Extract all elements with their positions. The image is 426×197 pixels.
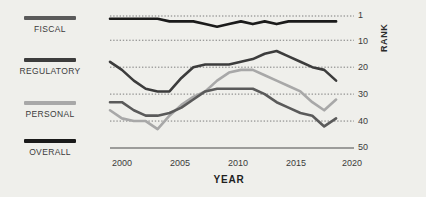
x-tick-2015: 2015 [286,158,306,168]
y-tick-30: 30 [358,89,368,99]
legend-swatch-overall [24,139,76,143]
x-axis-title: YEAR [104,174,354,185]
series-line-personal [110,70,336,129]
chart-legend: FISCAL REGULATORY PERSONAL OVERALL [0,0,100,197]
x-tick-2010: 2010 [228,158,248,168]
legend-label-overall: OVERALL [0,147,100,157]
legend-label-fiscal: FISCAL [0,24,100,34]
y-tick-1: 1 [358,10,363,20]
series-line-regulatory [110,51,336,91]
legend-item-fiscal[interactable]: FISCAL [0,16,100,34]
legend-swatch-fiscal [24,16,76,20]
y-tick-10: 10 [358,36,368,46]
legend-item-overall[interactable]: OVERALL [0,139,100,157]
legend-item-personal[interactable]: PERSONAL [0,101,100,119]
series-line-overall [110,19,336,27]
x-tick-2000: 2000 [112,158,132,168]
legend-label-regulatory: REGULATORY [0,66,100,76]
y-tick-40: 40 [358,116,368,126]
legend-swatch-regulatory [24,58,76,62]
x-tick-2005: 2005 [170,158,190,168]
plot-area [104,0,354,160]
legend-label-personal: PERSONAL [0,109,100,119]
y-axis-title: RANK [379,0,389,52]
x-tick-2020: 2020 [342,158,362,168]
x-axis-ticks: 2000 2005 2010 2015 2020 [104,158,364,174]
legend-item-regulatory[interactable]: REGULATORY [0,58,100,76]
y-tick-50: 50 [358,142,368,152]
legend-swatch-personal [24,101,76,105]
line-chart-svg [104,0,354,160]
chart-root: FISCAL REGULATORY PERSONAL OVERALL 1 10 … [0,0,426,197]
y-tick-20: 20 [358,62,368,72]
